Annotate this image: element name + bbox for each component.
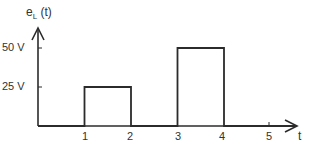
x-tick-label-1: 1 — [82, 131, 88, 142]
y-tick-label-25: 25 V — [2, 81, 25, 92]
x-tick-label-2: 2 — [127, 131, 133, 142]
waveform-line — [38, 48, 296, 126]
x-axis-title: t — [298, 130, 301, 142]
y-tick-label-50: 50 V — [2, 42, 25, 53]
x-tick-label-5: 5 — [266, 131, 272, 142]
pulse-waveform-chart — [0, 0, 313, 144]
x-tick-label-4: 4 — [219, 131, 225, 142]
x-tick-label-3: 3 — [175, 131, 181, 142]
y-axis-title: eL (t) — [26, 6, 52, 21]
